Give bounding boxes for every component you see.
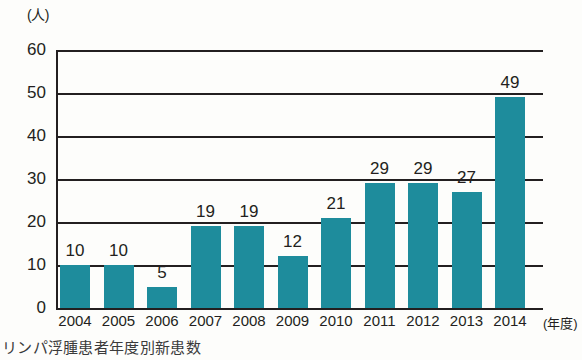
- y-tick-label: 10: [0, 255, 46, 275]
- gridline: [56, 136, 543, 138]
- bar: [321, 218, 351, 308]
- bar: [191, 226, 221, 308]
- y-tick-label: 30: [0, 169, 46, 189]
- x-axis-tick-labels: 2004200520062007200820092010201120122013…: [56, 312, 582, 336]
- bar-value-label: 19: [223, 202, 275, 222]
- y-axis-tick-labels: 0102030405060: [0, 0, 52, 360]
- bar: [234, 226, 264, 308]
- y-tick-label: 60: [0, 40, 46, 60]
- bar: [278, 256, 308, 308]
- gridline: [56, 50, 543, 52]
- x-axis-line: [56, 308, 543, 310]
- bar: [495, 97, 525, 308]
- x-axis-unit-label: (年度): [543, 313, 578, 332]
- bar-value-label: 27: [441, 168, 493, 188]
- bar-value-label: 12: [267, 232, 319, 252]
- x-tick-label: 2014: [484, 312, 536, 329]
- bar: [408, 183, 438, 308]
- plot-area: 101051919122129292749: [56, 50, 543, 310]
- bar: [104, 265, 134, 308]
- bar-value-label: 10: [93, 241, 145, 261]
- bar: [365, 183, 395, 308]
- bar-value-label: 21: [310, 194, 362, 214]
- y-tick-label: 0: [0, 298, 46, 318]
- bar-value-label: 49: [484, 73, 536, 93]
- bar: [147, 287, 177, 309]
- bar-value-label: 5: [136, 263, 188, 283]
- y-tick-label: 50: [0, 83, 46, 103]
- bar: [60, 265, 90, 308]
- y-tick-label: 20: [0, 212, 46, 232]
- y-tick-label: 40: [0, 126, 46, 146]
- chart-figure: (人) 0102030405060 101051919122129292749 …: [0, 0, 582, 360]
- chart-caption: リンパ浮腫患者年度別新患数: [2, 336, 201, 357]
- bar: [452, 192, 482, 308]
- gridline: [56, 93, 543, 95]
